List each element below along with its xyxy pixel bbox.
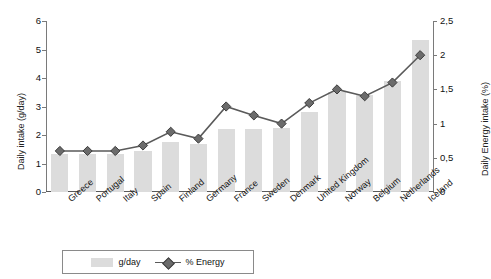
legend-label-gday: g/day <box>118 257 140 267</box>
line-marker-diamond <box>166 127 175 136</box>
y-axis-title-left: Daily intake (g/day) <box>16 93 26 170</box>
y-tick-label-left: 3 <box>36 102 41 112</box>
line-marker-diamond <box>249 111 258 120</box>
line-marker-diamond <box>55 146 64 155</box>
y-tick-label-left: 6 <box>36 16 41 26</box>
x-axis-label: Belgium <box>371 196 377 204</box>
line-diamond-icon <box>155 257 181 267</box>
legend-item-gday: g/day <box>91 257 140 267</box>
y-tick-label-right: 0,5 <box>440 153 453 163</box>
x-axis-label: Greece <box>66 196 72 204</box>
line-marker-diamond <box>111 146 120 155</box>
legend-label-energy: % Energy <box>186 257 225 267</box>
plot-area: 0123456 00,511,522,5 <box>46 21 434 192</box>
x-axis-label: Finland <box>177 196 183 204</box>
x-axis-label: France <box>232 196 238 204</box>
y-axis-title-right: Daily Energy intake (%) <box>480 82 490 176</box>
x-axis-labels: GreecePortugalItalySpainFinlandGermanyFr… <box>46 193 434 245</box>
x-axis-label: Iceland <box>426 196 432 204</box>
line-series <box>46 21 434 192</box>
x-axis-label: Netherlands <box>398 196 404 204</box>
y-tick-label-left: 1 <box>36 159 41 169</box>
x-axis-label: Denmark <box>288 196 294 204</box>
y-tick-label-left: 0 <box>36 187 41 197</box>
chart-container: Daily intake (g/day) Daily Energy intake… <box>0 0 491 279</box>
x-axis-label: Germany <box>204 196 210 204</box>
x-axis-label: Spain <box>149 196 155 204</box>
line-markers <box>55 51 424 156</box>
y-tick-label-left: 4 <box>36 73 41 83</box>
y-tick-label-right: 1,5 <box>440 84 453 94</box>
line-marker-diamond <box>138 141 147 150</box>
x-axis-label: Sweden <box>260 196 266 204</box>
y-tick-label-left: 5 <box>36 45 41 55</box>
x-axis-label: Italy <box>121 196 127 204</box>
line-path <box>60 55 420 151</box>
y-tick-label-right: 2 <box>440 50 445 60</box>
bar-swatch-icon <box>91 258 113 267</box>
y-tick-label-right: 2,5 <box>440 16 453 26</box>
x-axis-label: Portugal <box>94 196 100 204</box>
legend-item-energy: % Energy <box>155 257 225 267</box>
line-marker-diamond <box>332 85 341 94</box>
x-axis-label: Norway <box>343 196 349 204</box>
x-axis-label: United Kingdom <box>315 196 321 204</box>
chart-legend: g/day % Energy <box>62 250 254 274</box>
line-marker-diamond <box>360 92 369 101</box>
y-tick-label-right: 1 <box>440 119 445 129</box>
line-marker-diamond <box>83 146 92 155</box>
y-tick-label-left: 2 <box>36 130 41 140</box>
